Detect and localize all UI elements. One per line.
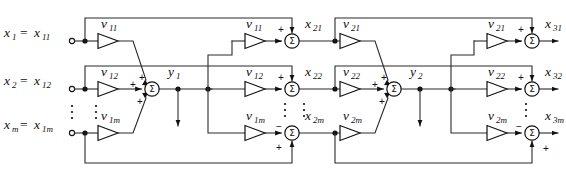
sign-x3m-bottom: + xyxy=(543,143,549,154)
sign-x2m-bottom: + xyxy=(276,142,282,153)
weight-label-v1m: v 1m xyxy=(101,108,121,125)
amp-v1m xyxy=(98,126,118,141)
input-x1-equals: = xyxy=(20,25,28,40)
weight-v11-subscript: 11 xyxy=(109,23,117,33)
sum-junction-x22: Σ xyxy=(285,82,299,96)
sign-x32-left: − xyxy=(516,84,522,95)
y2-symbol: y xyxy=(408,64,416,79)
sigma-glyph-y2: Σ xyxy=(391,84,397,94)
sign-y2-in2: + xyxy=(372,79,378,90)
weight-v2mb-subscript: 2m xyxy=(496,115,508,125)
amp-v12-b xyxy=(245,82,265,97)
x22-symbol: x xyxy=(304,64,311,79)
amp-v21 xyxy=(340,34,360,49)
sum-junction-y1: Σ xyxy=(145,82,159,96)
sum-junction-x21: Σ xyxy=(285,34,299,48)
sum-junction-x2m: Σ xyxy=(285,126,299,140)
input-xm-subscript: m xyxy=(12,124,19,134)
y1-subscript: 1 xyxy=(176,71,181,81)
weight-v21-symbol: v xyxy=(343,16,349,31)
sum-junction-x32: Σ xyxy=(525,82,539,96)
x3m-subscript: 3m xyxy=(552,115,565,125)
amp-v2m-b xyxy=(487,126,507,141)
input-terminal-xm xyxy=(69,130,98,135)
weight-v12-subscript: 12 xyxy=(109,71,119,81)
y1-symbol: y xyxy=(166,64,174,79)
sigma-glyph-x32: Σ xyxy=(529,84,535,94)
weight-v1m-symbol: v xyxy=(101,108,107,123)
sum-junction-x3m: Σ xyxy=(525,126,539,140)
input-xm-alias-subscript: 1m xyxy=(42,124,54,134)
weight-label-v2m-b: v 2m xyxy=(488,108,508,125)
input-terminal-x2 xyxy=(69,86,98,91)
amp-v2m xyxy=(340,126,360,141)
amp-v11 xyxy=(98,34,118,49)
weight-v22-symbol: v xyxy=(343,64,349,79)
input-x1-symbol: x xyxy=(3,25,10,40)
input-x2-equals: = xyxy=(20,73,28,88)
amp-v11-b xyxy=(245,34,265,49)
weight-v1mb-subscript: 1m xyxy=(254,115,266,125)
sign-x2m-left: − xyxy=(276,121,282,132)
input-terminal-x1 xyxy=(69,38,98,43)
sum-junction-x31: Σ xyxy=(525,34,539,48)
sigma-glyph-x31: Σ xyxy=(529,36,535,46)
sign-y1-in2: + xyxy=(130,79,136,90)
input-xm-symbol: x xyxy=(3,117,10,132)
weight-v11b-subscript: 11 xyxy=(254,23,262,33)
input-xm-equals: = xyxy=(20,117,28,132)
x2m-symbol: x xyxy=(304,108,311,123)
input-x1-alias-subscript: 11 xyxy=(42,32,50,42)
sign-y1-in1: + xyxy=(139,72,145,83)
input-xm-alias-symbol: x xyxy=(33,117,40,132)
input-x1-alias-symbol: x xyxy=(33,25,40,40)
input-x2-alias-symbol: x xyxy=(33,73,40,88)
sign-y2-in1: + xyxy=(381,72,387,83)
weight-v2m-subscript: 2m xyxy=(351,115,363,125)
sign-x21-top: + xyxy=(278,24,284,35)
sign-x3m-left: − xyxy=(516,121,522,132)
label-x21: x 21 xyxy=(304,16,322,33)
sigma-glyph-x2m: Σ xyxy=(289,128,295,138)
weight-v11b-symbol: v xyxy=(246,16,252,31)
weight-v22b-subscript: 22 xyxy=(496,71,506,81)
vdots-weight-column-1 xyxy=(95,105,97,119)
weight-v1mb-symbol: v xyxy=(246,108,252,123)
sigma-glyph-y1: Σ xyxy=(149,84,155,94)
weight-label-v2m: v 2m xyxy=(343,108,363,125)
amp-v12 xyxy=(98,82,118,97)
label-x2m: x 2m xyxy=(304,108,325,125)
weight-v21b-symbol: v xyxy=(488,16,494,31)
weight-v11-symbol: v xyxy=(101,16,107,31)
output-label-x3m: x 3m xyxy=(544,108,565,125)
input-label-xm: x m = x 1m xyxy=(3,117,54,134)
weight-label-v1m-b: v 1m xyxy=(246,108,266,125)
vdots-x2-column xyxy=(284,103,286,117)
amp-v1m-b xyxy=(245,126,265,141)
output-label-x32: x 32 xyxy=(544,64,563,81)
weight-v2m-symbol: v xyxy=(343,108,349,123)
amp-v22 xyxy=(340,82,360,97)
output-label-x31: x 31 xyxy=(544,16,562,33)
sign-x32-top: + xyxy=(518,72,524,83)
input-x1-subscript: 1 xyxy=(12,32,17,42)
sigma-glyph-x22: Σ xyxy=(289,84,295,94)
weight-v21b-subscript: 21 xyxy=(496,23,505,33)
x31-symbol: x xyxy=(544,16,551,31)
diagram-canvas: Σ + + + Σ xyxy=(0,0,566,180)
sum-junction-y2: Σ xyxy=(387,82,401,96)
vdots-input-column xyxy=(71,105,73,119)
weight-v22-subscript: 22 xyxy=(351,71,361,81)
sign-x22-left: − xyxy=(276,84,282,95)
input-x2-alias-subscript: 12 xyxy=(42,80,52,90)
x2m-subscript: 2m xyxy=(313,115,325,125)
x21-subscript: 21 xyxy=(313,23,322,33)
input-label-x2: x 2 = x 12 xyxy=(3,73,52,90)
input-x2-subscript: 2 xyxy=(12,80,17,90)
weight-v22b-symbol: v xyxy=(488,64,494,79)
label-x22: x 22 xyxy=(304,64,323,81)
sign-y2-in3: + xyxy=(379,96,385,107)
weight-v12b-symbol: v xyxy=(246,64,252,79)
weight-v1m-subscript: 1m xyxy=(109,115,121,125)
sigma-glyph-x3m: Σ xyxy=(529,128,535,138)
